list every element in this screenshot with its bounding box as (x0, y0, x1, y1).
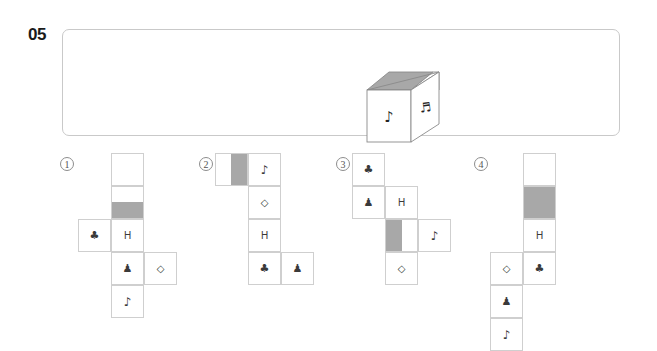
diamond-icon: ◇ (398, 264, 406, 274)
option-3-cell: ♣ (352, 153, 385, 186)
pawn-icon: ♟ (364, 197, 374, 208)
option-3-cell (385, 219, 418, 252)
stimulus-panel: ♪ ♬ (62, 29, 620, 136)
diamond-icon: ◇ (157, 264, 165, 274)
option-4-cell: ♪ (490, 318, 523, 351)
option-2-cell: ♟ (281, 252, 314, 285)
pawn-icon: ♟ (502, 296, 512, 307)
option-1-cell: ♟ (111, 252, 144, 285)
pawn-icon: ♟ (123, 263, 133, 274)
option-2-cell (215, 153, 248, 186)
club-icon: ♣ (90, 230, 100, 241)
option-3-cell: ♟ (352, 186, 385, 219)
option-1-cell: H (111, 219, 144, 252)
cube-svg: ♪ ♬ (363, 68, 443, 158)
option-4-label[interactable]: 4 (474, 157, 488, 171)
gray-fill (524, 187, 555, 218)
option-4-cell (523, 186, 556, 219)
option-2-label[interactable]: 2 (199, 157, 213, 171)
option-2-cell: ◇ (248, 186, 281, 219)
diamond-icon: ◇ (503, 264, 511, 274)
cube-right-beamed-notes-icon: ♬ (419, 99, 433, 115)
letter-h-label: H (536, 231, 543, 241)
pawn-icon: ♟ (293, 263, 303, 274)
gray-band-right (231, 154, 247, 185)
option-4-cell: H (523, 219, 556, 252)
option-1-label[interactable]: 1 (60, 157, 74, 171)
option-3-cell: ◇ (385, 252, 418, 285)
option-4-cell (523, 153, 556, 186)
option-4-cell: ◇ (490, 252, 523, 285)
option-1-cell: ♣ (78, 219, 111, 252)
option-3-cell: ♪ (418, 219, 451, 252)
question-number: 05 (28, 25, 46, 45)
option-4-cell: ♟ (490, 285, 523, 318)
eighth-note-icon: ♪ (431, 230, 439, 242)
option-1-cell: ◇ (144, 252, 177, 285)
gray-band-left (386, 220, 402, 251)
eighth-note-icon: ♪ (261, 164, 269, 176)
option-2-cell: H (248, 219, 281, 252)
letter-h-label: H (124, 231, 131, 241)
cube-figure: ♪ ♬ (363, 68, 443, 158)
cube-front-note-icon: ♪ (384, 108, 394, 126)
option-3-label[interactable]: 3 (336, 157, 350, 171)
option-2-cell: ♪ (248, 153, 281, 186)
option-2-cell: ♣ (248, 252, 281, 285)
eighth-note-icon: ♪ (124, 296, 132, 308)
club-icon: ♣ (364, 164, 374, 175)
letter-h-label: H (398, 198, 405, 208)
club-icon: ♣ (260, 263, 270, 274)
letter-h-label: H (261, 231, 268, 241)
club-icon: ♣ (535, 263, 545, 274)
gray-band-bottom (112, 202, 143, 218)
option-1-cell (111, 153, 144, 186)
option-3-cell: H (385, 186, 418, 219)
option-1-cell: ♪ (111, 285, 144, 318)
option-4-cell: ♣ (523, 252, 556, 285)
diamond-icon: ◇ (261, 198, 269, 208)
option-1-cell (111, 186, 144, 219)
eighth-note-icon: ♪ (503, 329, 511, 341)
